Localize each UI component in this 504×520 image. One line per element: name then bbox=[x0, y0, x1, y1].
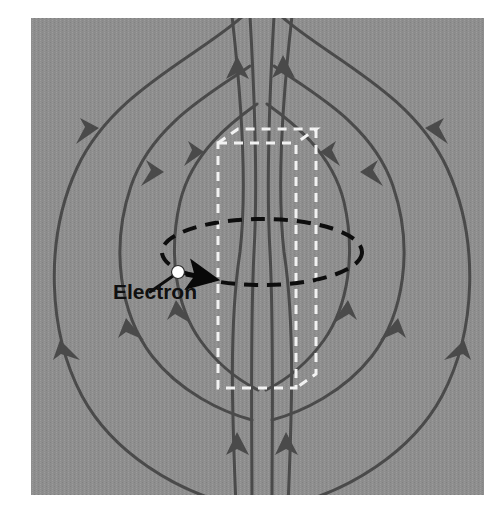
electron-label: Electron bbox=[113, 280, 197, 303]
figure-canvas: Electron bbox=[0, 0, 504, 520]
magnetic-field-figure: Electron bbox=[0, 0, 504, 520]
electron-particle bbox=[172, 266, 185, 279]
